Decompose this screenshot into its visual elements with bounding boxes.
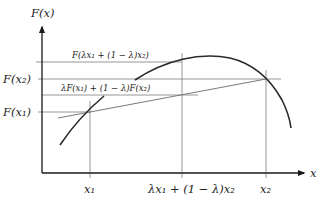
x2-label: x₂ [260, 182, 271, 196]
concavity-diagram: F(x) x F(x₂) F(x₁) F(λx₁ + (1 − λ)x₂) λF… [0, 0, 329, 204]
function-curve-lower [60, 96, 104, 145]
mid-label: λx₁ + (1 − λ)x₂ [147, 182, 235, 196]
function-curve-upper [135, 56, 291, 128]
x-axis-label: x [310, 166, 317, 180]
x1-label: x₁ [84, 182, 95, 196]
mix-of-f-label: λF(x₁) + (1 − λ)F(x₂) [60, 83, 150, 93]
f-x1-label: F(x₁) [2, 105, 31, 119]
f-of-mix-label: F(λx₁ + (1 − λ)x₂) [71, 50, 149, 60]
y-axis-label: F(x) [30, 6, 54, 20]
f-x2-label: F(x₂) [2, 72, 31, 86]
